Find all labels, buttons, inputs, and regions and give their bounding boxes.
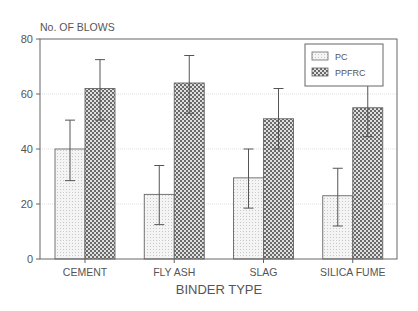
legend-swatch-pc [312, 52, 328, 60]
legend: PC PPFRC [305, 44, 383, 86]
y-axis-title: No. OF BLOWS [40, 21, 115, 33]
x-axis-title: BINDER TYPE [176, 282, 263, 297]
y-tick-label: 80 [21, 33, 33, 45]
legend-swatch-ppfrc [312, 68, 328, 76]
x-tick-label: FLY ASH [153, 266, 195, 278]
y-axis-ticks: 020406080 [21, 33, 40, 265]
y-tick-label: 20 [21, 198, 33, 210]
legend-label-pc: PC [335, 52, 348, 62]
x-tick-label: SLAG [249, 266, 277, 278]
bar-chart: 020406080 CEMENTFLY ASHSLAGSILICA FUME N… [0, 0, 418, 311]
x-tick-label: SILICA FUME [320, 266, 385, 278]
x-axis-labels: CEMENTFLY ASHSLAGSILICA FUME [63, 266, 386, 278]
legend-box [305, 44, 383, 86]
legend-label-ppfrc: PPFRC [335, 68, 366, 78]
y-tick-label: 60 [21, 88, 33, 100]
x-tick-label: CEMENT [63, 266, 108, 278]
y-tick-label: 0 [27, 253, 33, 265]
y-tick-label: 40 [21, 143, 33, 155]
